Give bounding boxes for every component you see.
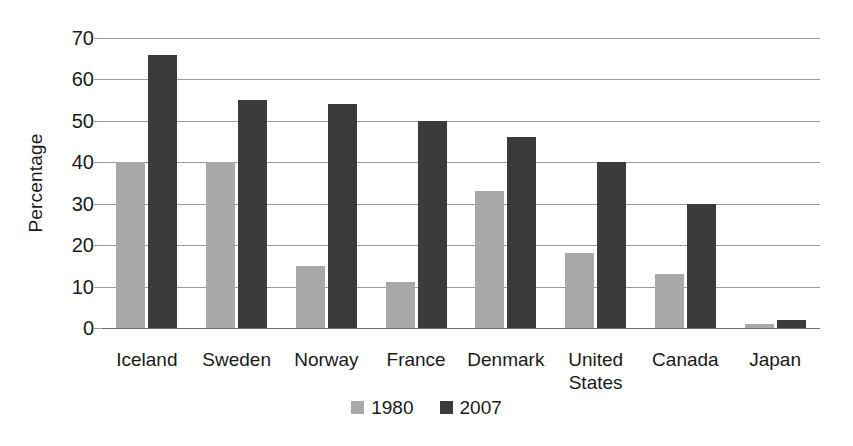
bar-united-states-2007 <box>597 162 626 328</box>
bar-sweden-2007 <box>238 100 267 328</box>
bar-japan-1980 <box>745 324 774 328</box>
bar-canada-1980 <box>655 274 684 328</box>
plot-area <box>102 38 820 328</box>
y-axis-tick-label: 40 <box>48 152 94 172</box>
y-axis-tick-mark <box>94 245 102 246</box>
bar-france-2007 <box>418 121 447 328</box>
bar-norway-1980 <box>296 266 325 328</box>
x-axis-label-japan: Japan <box>730 348 820 371</box>
x-axis-label-sweden: Sweden <box>192 348 282 371</box>
bar-norway-2007 <box>328 104 357 328</box>
y-axis-tick-mark <box>94 328 102 329</box>
chart-legend: 19802007 <box>0 398 853 417</box>
y-axis-tick-mark <box>94 162 102 163</box>
x-axis-label-denmark: Denmark <box>461 348 551 371</box>
legend-swatch-1980 <box>351 401 364 414</box>
legend-swatch-2007 <box>440 401 453 414</box>
y-axis-tick-label: 10 <box>48 277 94 297</box>
y-axis-tick-label: 20 <box>48 235 94 255</box>
y-axis-tick-label: 30 <box>48 194 94 214</box>
bar-france-1980 <box>386 282 415 328</box>
y-axis-tick-mark <box>94 38 102 39</box>
bar-canada-2007 <box>687 204 716 328</box>
gridline <box>102 38 820 39</box>
legend-label-2007: 2007 <box>460 398 502 417</box>
x-axis-label-france: France <box>371 348 461 371</box>
bar-japan-2007 <box>777 320 806 328</box>
bar-denmark-1980 <box>475 191 504 328</box>
bar-sweden-1980 <box>206 162 235 328</box>
axis-baseline <box>102 328 820 329</box>
y-axis-tick-label: 70 <box>48 28 94 48</box>
bar-iceland-2007 <box>148 55 177 328</box>
x-axis-label-iceland: Iceland <box>102 348 192 371</box>
y-axis-tick-label: 60 <box>48 69 94 89</box>
x-axis-category-labels: IcelandSwedenNorwayFranceDenmarkUnited S… <box>102 348 820 404</box>
y-axis-tick-label: 0 <box>48 318 94 338</box>
y-axis-tick-mark <box>94 287 102 288</box>
y-axis-tick-mark <box>94 121 102 122</box>
x-axis-label-canada: Canada <box>641 348 731 371</box>
gridline <box>102 79 820 80</box>
legend-label-1980: 1980 <box>371 398 413 417</box>
bar-denmark-2007 <box>507 137 536 328</box>
bar-chart: Percentage 706050403020100 IcelandSweden… <box>0 0 853 446</box>
bar-iceland-1980 <box>116 162 145 328</box>
y-axis-tick-label: 50 <box>48 111 94 131</box>
bar-united-states-1980 <box>565 253 594 328</box>
gridline <box>102 121 820 122</box>
x-axis-label-norway: Norway <box>282 348 372 371</box>
y-axis-tick-labels: 706050403020100 <box>48 38 94 328</box>
legend-item-2007: 2007 <box>440 398 502 417</box>
y-axis-tick-mark <box>94 204 102 205</box>
y-axis-tick-mark <box>94 79 102 80</box>
x-axis-label-united-states: United States <box>551 348 641 394</box>
legend-item-1980: 1980 <box>351 398 413 417</box>
